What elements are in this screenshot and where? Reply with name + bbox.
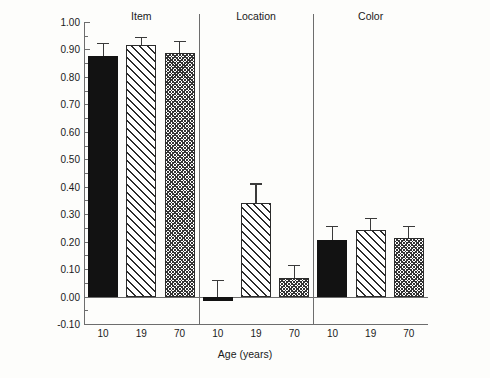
- error-bar-cap: [174, 41, 186, 42]
- error-bar-stem: [217, 280, 218, 297]
- bar-color-70: [394, 238, 424, 297]
- error-bar-stem: [370, 218, 371, 230]
- error-bar-stem: [103, 43, 104, 57]
- y-axis-tick-label: 0.50: [61, 154, 80, 165]
- group-separator: [199, 14, 200, 324]
- x-axis-tick-label: 19: [365, 328, 376, 339]
- figure-bar-chart: Corrected Recognition Age (years) 1.000.…: [0, 0, 490, 378]
- error-bar-stem: [179, 41, 180, 53]
- bar-location-10: [203, 297, 233, 302]
- zero-baseline: [84, 297, 428, 298]
- y-axis-tick: [85, 49, 90, 50]
- bar-item-70: [165, 53, 195, 297]
- bar-color-19: [356, 230, 386, 296]
- y-axis-tick-label: 0.00: [61, 291, 80, 302]
- y-axis-tick-label: 1.00: [61, 17, 80, 28]
- error-bar-cap: [250, 183, 262, 184]
- x-axis-tick-label: 19: [250, 328, 261, 339]
- x-axis-tick-label: 70: [174, 328, 185, 339]
- x-axis-tick-label: 19: [136, 328, 147, 339]
- x-axis-tick-label: 10: [327, 328, 338, 339]
- y-axis-minor-tick: [85, 36, 88, 37]
- group-title-color: Color: [358, 10, 383, 22]
- x-axis-title: Age (years): [0, 348, 490, 360]
- y-axis-tick-label: 0.10: [61, 264, 80, 275]
- bar-item-19: [126, 45, 156, 296]
- y-axis-tick-label: -0.10: [57, 319, 80, 330]
- bar-location-70: [279, 278, 309, 297]
- error-bar-stem: [141, 37, 142, 45]
- group-separator: [313, 14, 314, 324]
- bar-location-19: [241, 203, 271, 296]
- y-axis-tick-label: 0.70: [61, 99, 80, 110]
- x-axis-tick-label: 10: [212, 328, 223, 339]
- y-axis-tick-label: 0.20: [61, 236, 80, 247]
- error-bar-cap: [288, 265, 300, 266]
- y-axis-tick-label: 0.80: [61, 71, 80, 82]
- error-bar-cap: [135, 37, 147, 38]
- y-axis-tick-label: 0.30: [61, 209, 80, 220]
- x-axis-tick-label: 10: [98, 328, 109, 339]
- y-axis-tick-label: 0.90: [61, 44, 80, 55]
- error-bar-stem: [294, 265, 295, 278]
- x-axis-tick-label: 70: [289, 328, 300, 339]
- error-bar-stem: [255, 183, 256, 203]
- bar-color-10: [317, 240, 347, 296]
- y-axis-minor-tick: [85, 310, 88, 311]
- bar-item-10: [88, 56, 118, 296]
- group-title-item: Item: [131, 10, 151, 22]
- error-bar-cap: [212, 280, 224, 281]
- error-bar-stem: [408, 226, 409, 238]
- x-axis-tick-label: 70: [403, 328, 414, 339]
- y-axis-tick-label: 0.60: [61, 126, 80, 137]
- error-bar-stem: [332, 226, 333, 241]
- group-title-location: Location: [236, 10, 276, 22]
- x-axis-line: [84, 324, 428, 325]
- y-axis-tick: [85, 22, 90, 23]
- plot-area: 1.000.900.800.700.600.500.400.300.200.10…: [84, 22, 428, 324]
- error-bar-cap: [365, 218, 377, 219]
- error-bar-cap: [403, 226, 415, 227]
- error-bar-cap: [326, 226, 338, 227]
- error-bar-cap: [97, 43, 109, 44]
- y-axis-tick-label: 0.40: [61, 181, 80, 192]
